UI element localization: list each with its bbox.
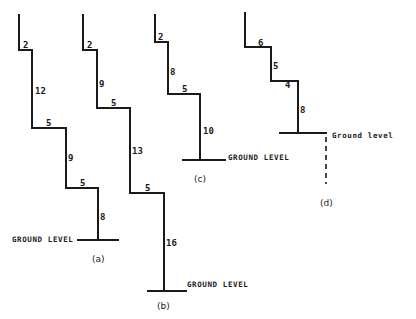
- caption-a: (a): [92, 254, 105, 264]
- caption-b: (b): [157, 301, 170, 311]
- label-b-0: 2: [87, 40, 92, 50]
- label-a-3: 9: [68, 153, 73, 163]
- figure-d: 6 5 4 8 Ground level (d): [245, 13, 393, 208]
- label-d-2: 4: [285, 80, 291, 90]
- ground-label-d: Ground level: [332, 131, 393, 140]
- label-b-5: 16: [166, 238, 177, 248]
- label-a-1: 12: [35, 86, 46, 96]
- label-b-4: 5: [145, 183, 150, 193]
- label-d-1: 5: [273, 61, 278, 71]
- label-b-3: 13: [132, 146, 143, 156]
- label-d-3: 8: [300, 105, 305, 115]
- label-b-1: 9: [99, 79, 104, 89]
- label-a-5: 8: [100, 212, 105, 222]
- label-c-0: 2: [158, 32, 163, 42]
- label-a-2: 5: [46, 118, 51, 128]
- step-profile-b: [83, 15, 164, 291]
- ground-label-b: GROUND LEVEL: [187, 280, 248, 289]
- label-b-2: 5: [111, 98, 116, 108]
- label-a-0: 2: [23, 40, 28, 50]
- label-c-2: 5: [182, 84, 187, 94]
- stepped-profile-diagram: 2 12 5 9 5 8 GROUND LEVEL (a) 2 9 5 13 5…: [0, 0, 416, 319]
- ground-label-c: GROUND LEVEL: [228, 153, 289, 162]
- label-d-0: 6: [258, 38, 263, 48]
- caption-d: (d): [320, 198, 333, 208]
- label-c-3: 10: [203, 126, 214, 136]
- caption-c: (c): [194, 174, 206, 184]
- label-c-1: 8: [170, 67, 175, 77]
- figure-c: 2 8 5 10 GROUND LEVEL (c): [155, 15, 289, 184]
- label-a-4: 5: [80, 178, 85, 188]
- figure-b: 2 9 5 13 5 16 GROUND LEVEL (b): [83, 15, 248, 311]
- ground-label-a: GROUND LEVEL: [12, 235, 73, 244]
- step-profile-d: [245, 13, 298, 133]
- figure-a: 2 12 5 9 5 8 GROUND LEVEL (a): [12, 15, 118, 264]
